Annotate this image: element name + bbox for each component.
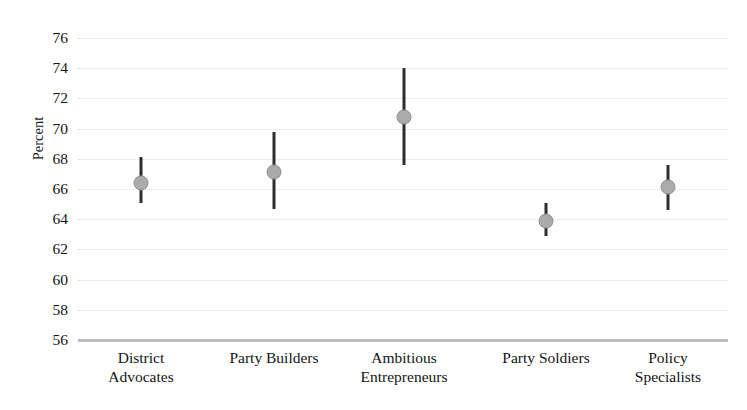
y-axis-tick-label: 76 [24,30,68,46]
y-axis-tick-label: 70 [24,121,68,137]
gridline [78,249,728,250]
gridline [78,310,728,311]
x-axis-tick-label: Ambitious Entrepreneurs [361,348,448,386]
gridline [78,189,728,190]
y-axis-tick-label: 56 [24,332,68,348]
data-point-marker [397,109,412,124]
y-axis-tick-label: 64 [24,211,68,227]
y-axis-tick-label: 58 [24,302,68,318]
data-point-marker [267,165,282,180]
y-axis-tick-label: 74 [24,60,68,76]
y-axis-tick-label: 60 [24,272,68,288]
gridline [78,38,728,39]
x-axis-tick-label: District Advocates [108,348,173,386]
y-axis-tick-label: 68 [24,151,68,167]
data-point-marker [539,213,554,228]
chart-figure: Percent 7674727068666462605856 District … [0,0,747,410]
y-axis-tick-label: 66 [24,181,68,197]
y-axis-tick-label: 62 [24,241,68,257]
data-point-marker [661,180,676,195]
x-axis-tick-label: Party Builders [229,348,318,367]
plot-area [78,30,728,340]
y-axis-tick-label: 72 [24,90,68,106]
y-axis-tick-labels: 7674727068666462605856 [20,30,68,340]
x-axis-tick-label: Policy Specialists [635,348,701,386]
x-axis-line [78,339,728,342]
x-axis-tick-labels: District AdvocatesParty BuildersAmbitiou… [0,348,747,408]
x-axis-tick-label: Party Soldiers [502,348,589,367]
data-point-marker [134,175,149,190]
gridline [78,280,728,281]
gridline [78,219,728,220]
